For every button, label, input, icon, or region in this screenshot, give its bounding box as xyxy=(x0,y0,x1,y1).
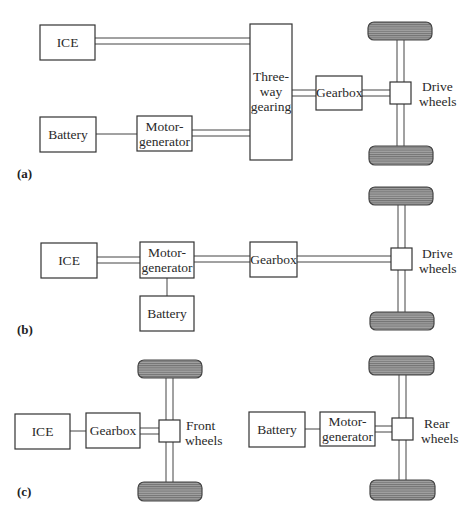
wheel-icon xyxy=(369,356,434,375)
panel-b xyxy=(41,187,434,331)
wheel-icon xyxy=(138,482,202,501)
motor-generator-label-c: Motor- generator xyxy=(320,414,375,444)
wheel-icon xyxy=(368,22,432,40)
panel-label-a: (a) xyxy=(17,166,32,182)
panel-label-b: (b) xyxy=(17,322,33,338)
differential-a xyxy=(390,82,411,104)
differential-front xyxy=(159,420,180,442)
motor-generator-label-a: Motor- generator xyxy=(137,119,192,149)
motor-generator-label-b: Motor- generator xyxy=(140,245,194,275)
wheel-icon xyxy=(369,187,433,205)
battery-label-b: Battery xyxy=(140,306,194,321)
wheel-icon xyxy=(370,312,434,330)
drive-wheels-label-b: Drive wheels xyxy=(419,246,457,276)
ice-label-a: ICE xyxy=(40,35,95,50)
gearbox-label-b: Gearbox xyxy=(250,252,297,267)
panel-label-c: (c) xyxy=(17,484,31,500)
wheel-icon xyxy=(370,480,435,500)
wheel-icon xyxy=(138,360,202,378)
gearbox-label-c: Gearbox xyxy=(86,423,140,438)
differential-b xyxy=(391,248,412,270)
rear-wheels-label: Rear wheels xyxy=(421,416,459,446)
differential-rear xyxy=(392,418,413,440)
battery-label-c: Battery xyxy=(249,422,305,437)
front-wheels-label: Front wheels xyxy=(185,418,223,448)
ice-label-b: ICE xyxy=(41,253,97,268)
panel-a xyxy=(40,22,433,165)
ice-label-c: ICE xyxy=(15,424,70,439)
three-way-gearing-label: Three- way gearing xyxy=(250,69,292,114)
gearbox-label-a: Gearbox xyxy=(316,85,362,100)
battery-label-a: Battery xyxy=(40,127,96,142)
drive-wheels-label-a: Drive wheels xyxy=(419,79,457,109)
wheel-icon xyxy=(369,146,433,165)
